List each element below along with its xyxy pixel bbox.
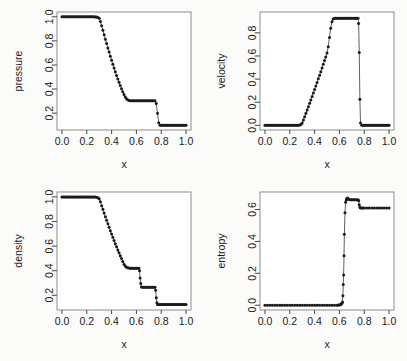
data-point	[106, 46, 109, 49]
data-point	[105, 219, 108, 222]
data-point	[308, 102, 311, 105]
data-point	[103, 212, 106, 215]
data-point	[113, 67, 116, 70]
x-tick-label: 0.8	[154, 135, 169, 147]
y-axis-title: entropy	[215, 233, 227, 269]
data-point	[317, 77, 320, 80]
data-point	[312, 91, 315, 94]
data-point	[322, 63, 325, 66]
data-point	[185, 124, 188, 127]
data-point	[120, 87, 123, 90]
x-tick-label: 0.2	[79, 135, 94, 147]
data-point	[98, 17, 101, 20]
y-tick-label: 0.4	[246, 72, 258, 87]
data-point	[154, 286, 157, 289]
data-point	[101, 208, 104, 211]
x-axis-title: x	[121, 338, 127, 350]
y-tick-label: 0.4	[43, 263, 55, 278]
data-point	[104, 38, 107, 41]
data-point	[155, 102, 158, 105]
velocity-plot: 0.00.20.40.60.81.00.00.20.40.60.8xveloci…	[203, 0, 406, 180]
data-point	[357, 199, 360, 202]
x-tick-label: 0.8	[154, 315, 169, 327]
data-point	[342, 273, 345, 276]
data-point	[357, 22, 360, 25]
data-point	[341, 294, 344, 297]
data-point	[307, 105, 310, 108]
x-tick-label: 0.4	[307, 315, 322, 327]
y-tick-label: 0.6	[43, 239, 55, 254]
y-tick-label: 0.8	[246, 25, 258, 40]
data-point	[115, 74, 118, 77]
data-point	[324, 55, 327, 58]
data-point	[343, 233, 346, 236]
data-point	[100, 204, 103, 207]
x-tick-label: 0.0	[55, 315, 70, 327]
x-tick-label: 1.0	[382, 315, 397, 327]
figure-canvas: 0.00.20.40.60.81.00.20.40.60.81.0xpressu…	[0, 0, 407, 361]
data-point	[111, 236, 114, 239]
data-point	[302, 118, 305, 121]
data-point	[100, 24, 103, 27]
data-point	[316, 81, 319, 84]
y-tick-label: 0.0	[246, 298, 258, 313]
plot-frame	[57, 192, 191, 310]
x-tick-label: 0.8	[357, 135, 372, 147]
data-point	[342, 283, 345, 286]
data-point	[110, 233, 113, 236]
x-tick-label: 1.0	[179, 315, 194, 327]
data-point	[108, 51, 111, 54]
data-point	[104, 215, 107, 218]
y-tick-label: 0.2	[246, 266, 258, 281]
density-plot: 0.00.20.40.60.81.00.20.40.60.81.0xdensit…	[0, 180, 203, 360]
panel-velocity: 0.00.20.40.60.81.00.00.20.40.60.8xveloci…	[203, 0, 406, 180]
y-tick-label: 0.0	[246, 118, 258, 133]
data-point	[313, 88, 316, 91]
data-point	[327, 45, 330, 48]
data-point	[358, 51, 361, 54]
data-point	[120, 257, 123, 260]
data-point	[156, 112, 159, 115]
x-tick-label: 0.4	[104, 135, 119, 147]
data-point	[155, 296, 158, 299]
data-point	[99, 200, 102, 203]
data-point	[116, 248, 119, 251]
data-point	[185, 303, 188, 306]
data-point	[323, 59, 326, 62]
data-point	[98, 197, 101, 200]
data-point	[119, 254, 122, 257]
data-point	[139, 277, 142, 280]
panel-density: 0.00.20.40.60.81.00.20.40.60.81.0xdensit…	[0, 180, 203, 360]
y-tick-label: 0.8	[43, 214, 55, 229]
data-point	[328, 36, 331, 39]
x-tick-label: 0.6	[332, 135, 347, 147]
data-point	[154, 289, 157, 292]
data-point	[101, 29, 104, 32]
data-point	[114, 242, 117, 245]
data-point	[119, 84, 122, 87]
data-point	[309, 98, 312, 101]
panel-pressure: 0.00.20.40.60.81.00.20.40.60.81.0xpressu…	[0, 0, 203, 180]
y-tick-label: 0.6	[246, 49, 258, 64]
y-tick-label: 1.0	[43, 189, 55, 204]
data-point	[343, 211, 346, 214]
y-tick-label: 0.2	[43, 106, 55, 121]
x-tick-label: 0.0	[258, 315, 273, 327]
data-point	[154, 99, 157, 102]
data-point	[115, 245, 118, 248]
pressure-plot: 0.00.20.40.60.81.00.20.40.60.81.0xpressu…	[0, 0, 203, 180]
data-point	[121, 90, 124, 93]
data-point	[109, 55, 112, 58]
x-tick-label: 0.4	[104, 315, 119, 327]
x-axis-title: x	[121, 158, 127, 170]
data-point	[118, 81, 121, 84]
data-point	[116, 77, 119, 80]
y-tick-label: 0.2	[43, 288, 55, 303]
data-point	[103, 33, 106, 36]
data-point	[108, 226, 111, 229]
plot-frame	[57, 12, 191, 130]
x-tick-label: 0.2	[79, 315, 94, 327]
y-tick-label: 1.0	[43, 9, 55, 24]
y-tick-label: 0.8	[43, 33, 55, 48]
y-tick-label: 0.6	[43, 58, 55, 73]
